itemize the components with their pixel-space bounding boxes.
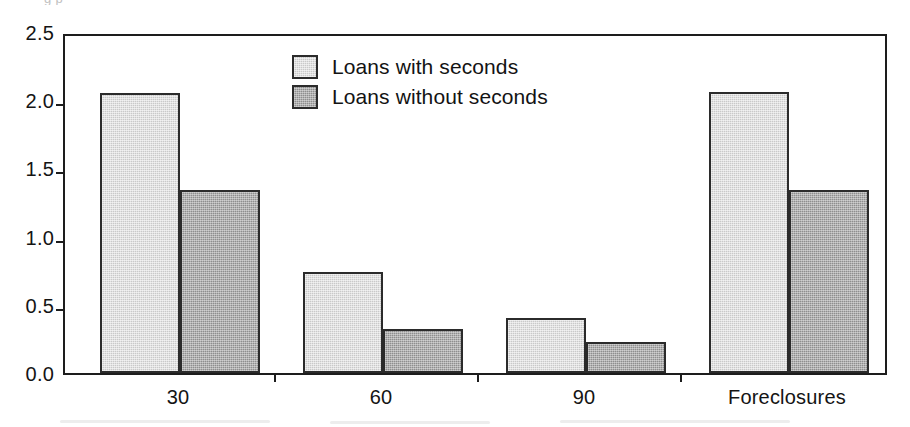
- bar-90-with-seconds: [506, 318, 586, 373]
- y-tick-mark-0-5: [56, 309, 65, 311]
- legend-swatch-dark-icon: [292, 85, 318, 109]
- bar-30-without-seconds: [180, 190, 260, 373]
- bar-60-without-seconds: [383, 329, 463, 373]
- y-tick-mark-1-0: [56, 241, 65, 243]
- y-tick-label-2-5: 2.5: [0, 22, 54, 45]
- scan-artifact: [560, 420, 790, 423]
- scan-artifact: [330, 421, 490, 424]
- x-tick-mark-2: [477, 373, 479, 382]
- legend-label-without-seconds: Loans without seconds: [332, 85, 548, 109]
- chart-page: g p 2.5 2.0 1.5 1.0 0.5 0.0 30 60: [0, 0, 910, 427]
- x-tick-mark-3: [680, 373, 682, 382]
- bar-90-without-seconds: [586, 342, 666, 373]
- scan-artifact: [60, 420, 270, 423]
- y-tick-mark-1-5: [56, 172, 65, 174]
- bar-30-with-seconds: [100, 93, 180, 373]
- legend-swatch-light-icon: [292, 55, 318, 79]
- y-tick-mark-2-0: [56, 104, 65, 106]
- bar-foreclosures-with-seconds: [709, 92, 789, 373]
- legend-entry-with-seconds: Loans with seconds: [292, 52, 548, 82]
- legend-label-with-seconds: Loans with seconds: [332, 55, 518, 79]
- legend-entry-without-seconds: Loans without seconds: [292, 82, 548, 112]
- y-tick-label-1-5: 1.5: [0, 158, 54, 181]
- x-tick-label-foreclosures: Foreclosures: [707, 386, 867, 409]
- y-tick-label-1-0: 1.0: [0, 227, 54, 250]
- x-tick-label-60: 60: [301, 386, 461, 409]
- bar-60-with-seconds: [303, 272, 383, 373]
- x-tick-label-30: 30: [98, 386, 258, 409]
- bar-foreclosures-without-seconds: [789, 190, 869, 373]
- y-tick-label-0-0: 0.0: [0, 363, 54, 386]
- x-tick-mark-1: [274, 373, 276, 382]
- x-tick-label-90: 90: [504, 386, 664, 409]
- legend: Loans with seconds Loans without seconds: [292, 52, 548, 112]
- clipped-caption-above: g p: [0, 0, 910, 5]
- y-tick-label-2-0: 2.0: [0, 90, 54, 113]
- y-tick-label-0-5: 0.5: [0, 295, 54, 318]
- y-axis-labels: 2.5 2.0 1.5 1.0 0.5 0.0: [0, 0, 56, 427]
